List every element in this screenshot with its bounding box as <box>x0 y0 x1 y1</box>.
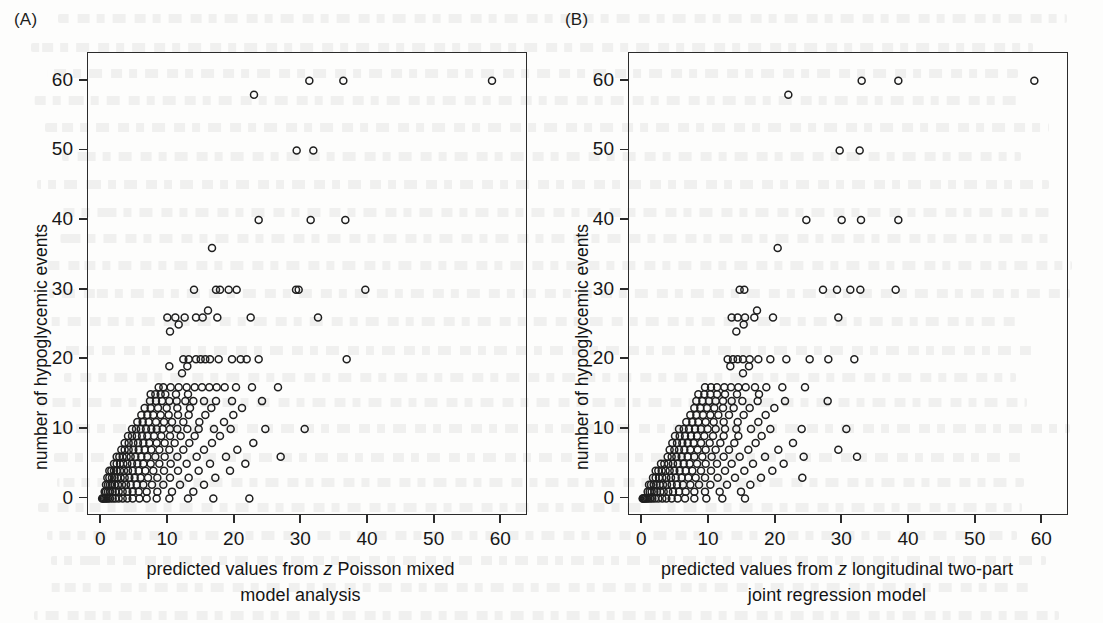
x-tick-label: 10 <box>697 528 718 550</box>
y-tick-label: 60 <box>52 69 73 91</box>
panel-a-xlab-italic: z <box>324 559 333 579</box>
y-tick-mark <box>79 357 87 359</box>
y-tick-label: 30 <box>52 278 73 300</box>
y-tick-label: 40 <box>593 208 614 230</box>
y-tick-mark <box>620 357 628 359</box>
x-tick-label: 40 <box>897 528 918 550</box>
x-tick-mark <box>433 515 435 523</box>
panel-b-xlab-post: longitudinal two-part <box>847 559 1013 579</box>
x-tick-mark <box>974 515 976 523</box>
y-tick-label: 10 <box>52 417 73 439</box>
x-tick-label: 30 <box>831 528 852 550</box>
x-tick-label: 50 <box>964 528 985 550</box>
panel-b-xlab-italic: z <box>838 559 847 579</box>
panel-b-scatter-points <box>629 53 1067 514</box>
panel-b-plot-frame <box>628 52 1068 515</box>
y-tick-label: 50 <box>593 138 614 160</box>
y-tick-mark <box>79 288 87 290</box>
panel-b: (B) number of hypoglycemic events 010203… <box>551 0 1103 623</box>
x-tick-label: 0 <box>636 528 647 550</box>
x-tick-label: 20 <box>223 528 244 550</box>
y-tick-label: 20 <box>52 347 73 369</box>
panel-a: (A) number of hypoglycemic events 010203… <box>0 0 551 623</box>
x-tick-label: 40 <box>356 528 377 550</box>
x-tick-mark <box>366 515 368 523</box>
y-tick-mark <box>620 149 628 151</box>
y-tick-mark <box>79 79 87 81</box>
panel-b-y-axis-title: number of hypoglycemic events <box>572 224 593 470</box>
y-tick-mark <box>620 79 628 81</box>
x-tick-mark <box>907 515 909 523</box>
x-tick-label: 60 <box>1031 528 1052 550</box>
y-tick-label: 10 <box>593 417 614 439</box>
x-tick-mark <box>840 515 842 523</box>
y-tick-label: 0 <box>62 487 73 509</box>
y-tick-label: 30 <box>593 278 614 300</box>
y-tick-mark <box>620 288 628 290</box>
x-tick-mark <box>640 515 642 523</box>
panel-a-tag: (A) <box>14 10 37 30</box>
x-tick-label: 60 <box>490 528 511 550</box>
y-tick-label: 50 <box>52 138 73 160</box>
panel-a-scatter-points <box>88 53 526 514</box>
panel-a-xlab-line2: model analysis <box>70 582 531 608</box>
panel-a-scatter-svg <box>88 53 526 514</box>
x-tick-mark <box>299 515 301 523</box>
panel-b-xlab-line2: joint regression model <box>601 582 1073 608</box>
panel-b-x-axis-title: predicted values from z longitudinal two… <box>551 556 1103 608</box>
x-tick-mark <box>707 515 709 523</box>
x-tick-label: 20 <box>764 528 785 550</box>
panel-b-tag: (B) <box>565 10 588 30</box>
panel-a-plot-frame <box>87 52 527 515</box>
y-tick-label: 40 <box>52 208 73 230</box>
panel-a-x-axis-title: predicted values from z Poisson mixed mo… <box>0 556 551 608</box>
y-tick-mark <box>79 497 87 499</box>
x-tick-mark <box>774 515 776 523</box>
y-tick-label: 0 <box>603 487 614 509</box>
x-tick-label: 30 <box>290 528 311 550</box>
y-tick-mark <box>79 149 87 151</box>
y-tick-label: 60 <box>593 69 614 91</box>
x-tick-mark <box>233 515 235 523</box>
x-tick-label: 10 <box>156 528 177 550</box>
y-tick-mark <box>620 427 628 429</box>
x-tick-mark <box>166 515 168 523</box>
y-tick-label: 20 <box>593 347 614 369</box>
x-tick-mark <box>499 515 501 523</box>
panel-a-xlab-post: Poisson mixed <box>333 559 455 579</box>
x-tick-label: 0 <box>95 528 106 550</box>
panel-a-xlab-pre: predicted values from <box>146 559 323 579</box>
y-tick-mark <box>620 497 628 499</box>
x-tick-mark <box>99 515 101 523</box>
x-tick-label: 50 <box>423 528 444 550</box>
y-tick-mark <box>79 427 87 429</box>
panel-b-scatter-svg <box>629 53 1067 514</box>
panel-a-y-axis-title: number of hypoglycemic events <box>31 224 52 470</box>
y-tick-mark <box>620 218 628 220</box>
y-tick-mark <box>79 218 87 220</box>
x-tick-mark <box>1040 515 1042 523</box>
panel-b-xlab-pre: predicted values from <box>661 559 838 579</box>
